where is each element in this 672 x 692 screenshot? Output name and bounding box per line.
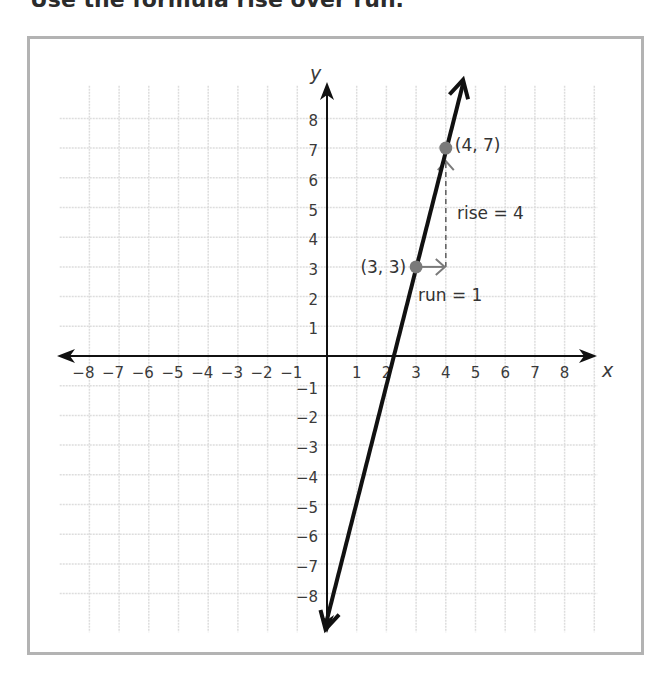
data-point [439, 142, 452, 155]
y-axis-label: y [309, 62, 322, 84]
y-tick-label: −8 [296, 588, 318, 606]
y-tick-label: −1 [296, 380, 318, 398]
y-tick-label: −3 [296, 439, 318, 457]
point-label-3-3: (3, 3) [360, 257, 406, 277]
x-tick-label: 5 [471, 364, 481, 382]
x-tick-label: −7 [102, 364, 124, 382]
point-label-4-7: (4, 7) [455, 135, 501, 155]
x-tick-label: −4 [191, 364, 213, 382]
y-tick-label: 5 [308, 202, 318, 220]
x-tick-label: −3 [221, 364, 243, 382]
y-tick-label: 6 [308, 172, 318, 190]
y-tick-label: −6 [296, 528, 318, 546]
y-tick-label: −7 [296, 558, 318, 576]
y-tick-label: 4 [308, 231, 318, 249]
y-tick-label: 8 [308, 112, 318, 130]
x-axis-label: x [601, 359, 614, 381]
y-tick-label: 1 [308, 320, 318, 338]
y-tick-label: 3 [308, 261, 318, 279]
y-tick-label: −5 [296, 499, 318, 517]
x-tick-label: −5 [161, 364, 183, 382]
run-label: run = 1 [418, 285, 482, 305]
y-tick-label: −4 [296, 469, 318, 487]
x-tick-label: −2 [251, 364, 273, 382]
graph-line [326, 84, 464, 625]
y-tick-label: −2 [296, 409, 318, 427]
x-tick-label: 8 [560, 364, 570, 382]
x-tick-label: 1 [352, 364, 362, 382]
y-tick-label: 2 [308, 291, 318, 309]
data-point [410, 260, 423, 273]
x-tick-label: 4 [441, 364, 451, 382]
rise-label: rise = 4 [457, 203, 524, 223]
coordinate-plane: yx−8−7−6−5−4−3−2−11234567887654321−1−2−3… [0, 0, 672, 692]
x-tick-label: −6 [132, 364, 154, 382]
x-tick-label: −8 [72, 364, 94, 382]
y-tick-label: 7 [308, 142, 318, 160]
x-tick-label: 3 [411, 364, 421, 382]
x-tick-label: 7 [530, 364, 540, 382]
x-tick-label: 6 [500, 364, 510, 382]
